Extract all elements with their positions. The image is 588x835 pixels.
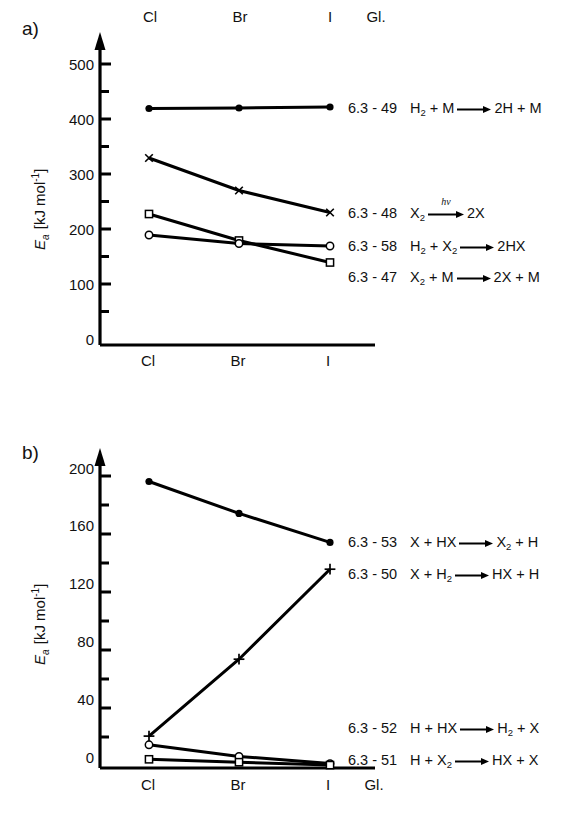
eq-a-sub: 2 <box>420 212 425 223</box>
photon-label: hν <box>441 197 450 207</box>
panel-b-plot <box>0 400 588 835</box>
legend-equation-6-3-51: H + X2HX + X <box>410 753 538 770</box>
panel-b-y-major-ticks <box>100 476 111 708</box>
legend-code-6-3-53: 6.3 - 53 <box>348 535 406 550</box>
legend-row-6-3-48: 6.3 - 48 X2hν2X <box>348 206 485 223</box>
series-6-3-58 <box>145 231 333 249</box>
eq-a-sub2: 2 <box>452 245 457 256</box>
series-6-3-53 <box>145 478 333 546</box>
legend-row-6-3-58: 6.3 - 58 H2 + X22HX <box>348 239 526 256</box>
eq-a: X + H <box>410 566 447 582</box>
eq-a: X <box>410 269 420 285</box>
legend-code-6-3-58: 6.3 - 58 <box>348 239 406 254</box>
eq-b: H <box>497 720 507 736</box>
legend-row-6-3-52: 6.3 - 52 H + HXH2 + X <box>348 721 539 738</box>
legend-code-6-3-47: 6.3 - 47 <box>348 270 406 285</box>
reaction-arrow-icon <box>457 105 491 114</box>
legend-row-6-3-47: 6.3 - 47 X2 + M2X + M <box>348 270 540 287</box>
legend-equation-6-3-52: H + HXH2 + X <box>410 721 539 738</box>
eq-a: X + HX <box>410 534 456 550</box>
legend-code-6-3-52: 6.3 - 52 <box>348 721 406 736</box>
reaction-arrow-icon <box>459 539 493 548</box>
legend-row-6-3-50: 6.3 - 50 X + H2HX + H <box>348 567 539 584</box>
eq-b: HX + H <box>492 566 539 582</box>
eq-b-rest: + X <box>513 720 539 736</box>
reaction-arrow-icon <box>455 757 489 766</box>
reaction-arrow-photon-icon: hν <box>428 210 464 219</box>
panel-a-y-major-ticks <box>100 64 111 284</box>
panel-a-y-axis <box>95 32 106 345</box>
chart-panel-b: b) Ea [kJ mol-1] 200 160 120 80 40 0 Cl … <box>0 400 588 835</box>
eq-b: X <box>496 534 506 550</box>
eq-b: 2X <box>467 205 485 221</box>
eq-a-rest: + M <box>426 100 455 116</box>
legend-code-6-3-51: 6.3 - 51 <box>348 753 406 768</box>
legend-equation-6-3-49: H2 + M2H + M <box>410 101 542 118</box>
legend-row-6-3-49: 6.3 - 49 H2 + M2H + M <box>348 101 542 118</box>
eq-a-rest: + X <box>426 238 452 254</box>
legend-equation-6-3-48: X2hν2X <box>410 206 485 223</box>
series-6-3-49 <box>145 103 333 112</box>
eq-b: 2X + M <box>494 269 540 285</box>
series-6-3-48 <box>145 154 334 216</box>
eq-a: H <box>410 100 420 116</box>
reaction-arrow-icon <box>460 243 494 252</box>
eq-a: H + X <box>410 752 447 768</box>
eq-a-sub: 2 <box>447 573 452 584</box>
eq-b: 2H + M <box>494 100 541 116</box>
eq-b-rest: + H <box>511 534 538 550</box>
legend-code-6-3-50: 6.3 - 50 <box>348 567 406 582</box>
legend-equation-6-3-58: H2 + X22HX <box>410 239 526 256</box>
chart-panel-a: a) Cl Br I Gl. Ea [kJ mol-1] 500 400 300… <box>0 0 588 400</box>
eq-b: HX + X <box>492 752 538 768</box>
eq-a: H + HX <box>410 720 457 736</box>
eq-a: H <box>410 238 420 254</box>
reaction-arrow-icon <box>455 571 489 580</box>
legend-equation-6-3-50: X + H2HX + H <box>410 567 539 584</box>
legend-code-6-3-49: 6.3 - 49 <box>348 101 406 116</box>
reaction-arrow-icon <box>457 274 491 283</box>
eq-a-sub: 2 <box>447 759 452 770</box>
legend-code-6-3-48: 6.3 - 48 <box>348 206 406 221</box>
legend-row-6-3-53: 6.3 - 53 X + HXX2 + H <box>348 535 538 552</box>
panel-a-plot <box>0 0 588 400</box>
series-6-3-50 <box>144 564 336 742</box>
legend-equation-6-3-53: X + HXX2 + H <box>410 535 538 552</box>
eq-a: X <box>410 205 420 221</box>
reaction-arrow-icon <box>460 725 494 734</box>
legend-equation-6-3-47: X2 + M2X + M <box>410 270 540 287</box>
figure-page: a) Cl Br I Gl. Ea [kJ mol-1] 500 400 300… <box>0 0 588 835</box>
eq-b: 2HX <box>497 238 525 254</box>
eq-a-rest: + M <box>425 269 454 285</box>
panel-b-y-axis <box>95 448 106 768</box>
legend-row-6-3-51: 6.3 - 51 H + X2HX + X <box>348 753 538 770</box>
